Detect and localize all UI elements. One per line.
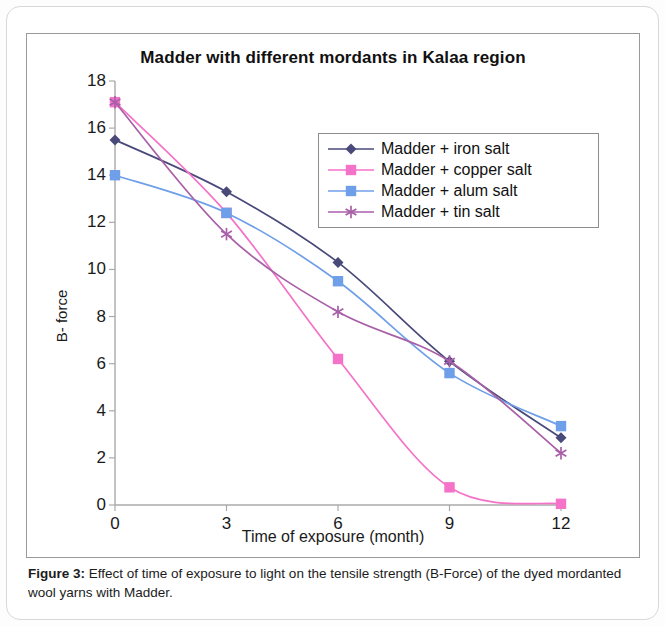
- y-tick-label: 18: [87, 71, 106, 91]
- legend-marker-icon: [325, 140, 377, 158]
- y-tick-label: 4: [97, 401, 106, 421]
- x-tick-label: 9: [445, 514, 454, 534]
- legend-item: Madder + alum salt: [325, 180, 592, 201]
- y-tick-label: 14: [87, 165, 106, 185]
- chart-title: Madder with different mordants in Kalaa …: [27, 48, 639, 68]
- chart-legend: Madder + iron saltMadder + copper saltMa…: [318, 133, 599, 228]
- y-tick-label: 16: [87, 118, 106, 138]
- legend-item: Madder + tin salt: [325, 201, 592, 222]
- chart-frame: Madder with different mordants in Kalaa …: [26, 33, 640, 558]
- x-tick-label: 12: [552, 514, 571, 534]
- legend-label: Madder + alum salt: [377, 182, 518, 200]
- y-tick-label: 10: [87, 259, 106, 279]
- legend-marker-icon: [325, 182, 377, 200]
- legend-item: Madder + iron salt: [325, 138, 592, 159]
- legend-label: Madder + tin salt: [377, 203, 500, 221]
- y-tick-label: 8: [97, 307, 106, 327]
- y-axis-title: B- force: [53, 290, 70, 343]
- y-tick-label: 6: [97, 354, 106, 374]
- legend-label: Madder + iron salt: [377, 140, 510, 158]
- x-tick-label: 0: [110, 514, 119, 534]
- y-tick-label: 0: [97, 495, 106, 515]
- y-tick-label: 12: [87, 212, 106, 232]
- legend-marker-icon: [325, 203, 377, 221]
- x-tick-label: 3: [222, 514, 231, 534]
- figure-caption: Figure 3: Effect of time of exposure to …: [28, 565, 636, 602]
- caption-label: Figure 3:: [28, 566, 85, 581]
- legend-marker-icon: [325, 161, 377, 179]
- legend-label: Madder + copper salt: [377, 161, 532, 179]
- y-tick-label: 2: [97, 448, 106, 468]
- x-tick-label: 6: [333, 514, 342, 534]
- caption-text: Effect of time of exposure to light on t…: [28, 566, 621, 600]
- legend-item: Madder + copper salt: [325, 159, 592, 180]
- figure-page: Madder with different mordants in Kalaa …: [0, 0, 665, 626]
